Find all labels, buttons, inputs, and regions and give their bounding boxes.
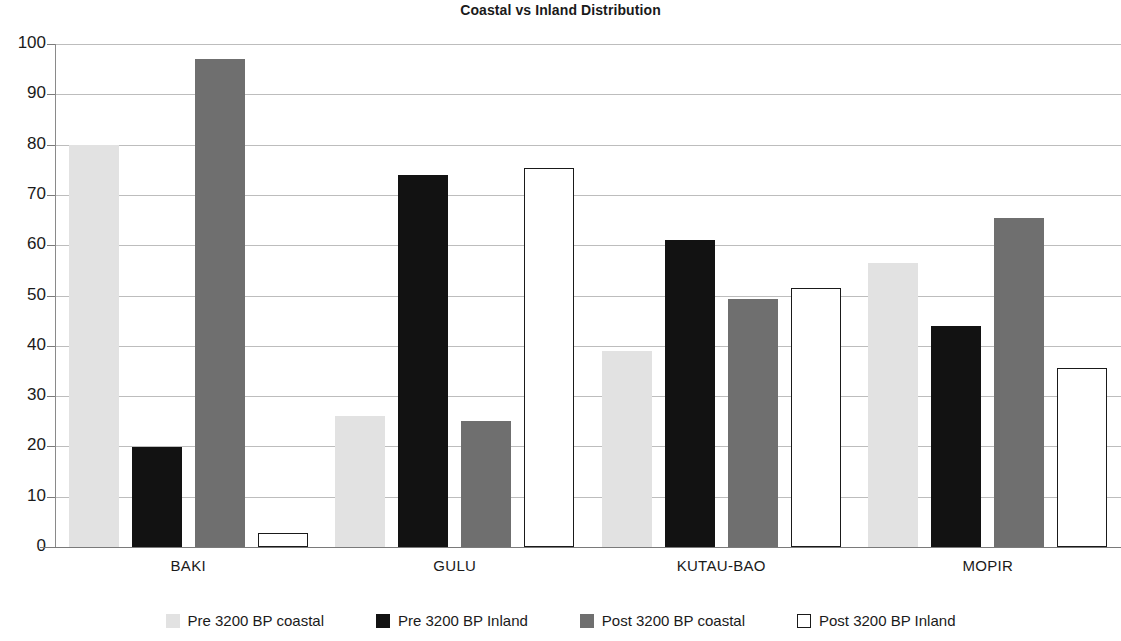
bars-layer	[55, 44, 1121, 547]
bar-mopir-series-0	[868, 263, 918, 547]
legend-label-1: Pre 3200 BP Inland	[398, 612, 528, 629]
x-category-label-mopir: MOPIR	[855, 557, 1121, 574]
bar-baki-series-0	[69, 145, 119, 547]
y-tick-mark-10	[47, 497, 55, 498]
chart-title: Coastal vs Inland Distribution	[0, 2, 1121, 18]
y-tick-mark-20	[47, 446, 55, 447]
bar-mopir-series-1	[931, 326, 981, 547]
bar-baki-series-3	[258, 533, 308, 547]
bar-baki-series-1	[132, 447, 182, 547]
bar-kutau-bao-series-3	[791, 288, 841, 547]
y-tick-label-70: 70	[0, 184, 46, 204]
y-tick-mark-100	[47, 44, 55, 45]
legend-label-2: Post 3200 BP coastal	[602, 612, 745, 629]
y-tick-label-40: 40	[0, 335, 46, 355]
legend-label-3: Post 3200 BP Inland	[819, 612, 956, 629]
bar-gulu-series-1	[398, 175, 448, 547]
y-tick-mark-70	[47, 195, 55, 196]
y-tick-label-100: 100	[0, 33, 46, 53]
y-tick-label-30: 30	[0, 385, 46, 405]
x-axis-line	[40, 547, 1121, 548]
y-tick-label-10: 10	[0, 486, 46, 506]
legend-item-2[interactable]: Post 3200 BP coastal	[580, 612, 745, 629]
y-axis-labels: 0102030405060708090100	[0, 0, 46, 641]
y-tick-label-50: 50	[0, 285, 46, 305]
bar-mopir-series-2	[994, 218, 1044, 547]
y-tick-mark-40	[47, 346, 55, 347]
legend-item-3[interactable]: Post 3200 BP Inland	[797, 612, 956, 629]
y-tick-mark-60	[47, 245, 55, 246]
dark-gray-swatch-icon	[580, 614, 594, 628]
x-category-label-baki: BAKI	[55, 557, 322, 574]
y-tick-mark-30	[47, 396, 55, 397]
bar-mopir-series-3	[1057, 368, 1107, 547]
bar-gulu-series-2	[461, 421, 511, 547]
y-tick-label-80: 80	[0, 134, 46, 154]
bar-gulu-series-3	[524, 168, 574, 547]
legend-item-1[interactable]: Pre 3200 BP Inland	[376, 612, 528, 629]
x-axis-category-labels: BAKIGULUKUTAU-BAOMOPIR	[55, 557, 1121, 583]
chart-legend: Pre 3200 BP coastalPre 3200 BP InlandPos…	[0, 612, 1121, 629]
black-swatch-icon	[376, 614, 390, 628]
y-tick-mark-50	[47, 296, 55, 297]
bar-kutau-bao-series-1	[665, 240, 715, 547]
bar-kutau-bao-series-0	[602, 351, 652, 547]
y-tick-label-20: 20	[0, 435, 46, 455]
legend-label-0: Pre 3200 BP coastal	[188, 612, 324, 629]
bar-baki-series-2	[195, 59, 245, 547]
y-tick-mark-90	[47, 94, 55, 95]
bar-gulu-series-0	[335, 416, 385, 547]
y-tick-label-0: 0	[0, 536, 46, 556]
y-tick-mark-0	[47, 547, 55, 548]
legend-item-0[interactable]: Pre 3200 BP coastal	[166, 612, 324, 629]
bar-kutau-bao-series-2	[728, 299, 778, 547]
y-tick-label-90: 90	[0, 83, 46, 103]
x-category-label-kutau-bao: KUTAU-BAO	[588, 557, 855, 574]
y-tick-mark-80	[47, 145, 55, 146]
x-category-label-gulu: GULU	[322, 557, 589, 574]
outline-swatch-icon	[797, 614, 811, 628]
y-tick-label-60: 60	[0, 234, 46, 254]
light-gray-swatch-icon	[166, 614, 180, 628]
